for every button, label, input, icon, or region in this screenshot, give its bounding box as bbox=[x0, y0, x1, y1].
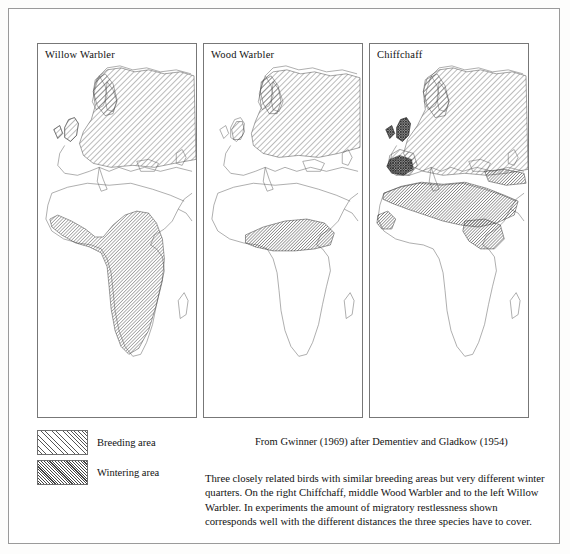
map-panel-chiffchaff[interactable]: Chiffchaff bbox=[369, 43, 529, 418]
page-border: Willow Warbler bbox=[8, 8, 560, 544]
legend-label-wintering: Wintering area bbox=[97, 467, 159, 478]
map-chiffchaff bbox=[370, 44, 528, 417]
legend: Breeding area Wintering area bbox=[37, 429, 212, 489]
panel-title-willow-warbler: Willow Warbler bbox=[45, 49, 115, 60]
map-stage-chiffchaff bbox=[370, 44, 528, 417]
map-panel-wood-warbler[interactable]: Wood Warbler bbox=[203, 43, 363, 418]
figure-page: Willow Warbler bbox=[0, 0, 570, 554]
map-stage-wood-warbler bbox=[204, 44, 362, 417]
figure-caption: Three closely related birds with similar… bbox=[205, 471, 545, 529]
source-attribution: From Gwinner (1969) after Dementiev and … bbox=[255, 436, 555, 447]
legend-swatch-wintering bbox=[37, 460, 88, 485]
legend-item-wintering: Wintering area bbox=[37, 459, 212, 485]
panel-title-wood-warbler: Wood Warbler bbox=[211, 49, 274, 60]
map-panel-willow-warbler[interactable]: Willow Warbler bbox=[37, 43, 197, 418]
map-willow-warbler bbox=[38, 44, 196, 417]
map-stage-willow-warbler bbox=[38, 44, 196, 417]
legend-label-breeding: Breeding area bbox=[97, 437, 156, 448]
map-wood-warbler bbox=[204, 44, 362, 417]
panel-title-chiffchaff: Chiffchaff bbox=[377, 49, 422, 60]
legend-item-breeding: Breeding area bbox=[37, 429, 212, 455]
map-panel-group: Willow Warbler bbox=[37, 43, 545, 418]
legend-swatch-breeding bbox=[37, 430, 88, 455]
